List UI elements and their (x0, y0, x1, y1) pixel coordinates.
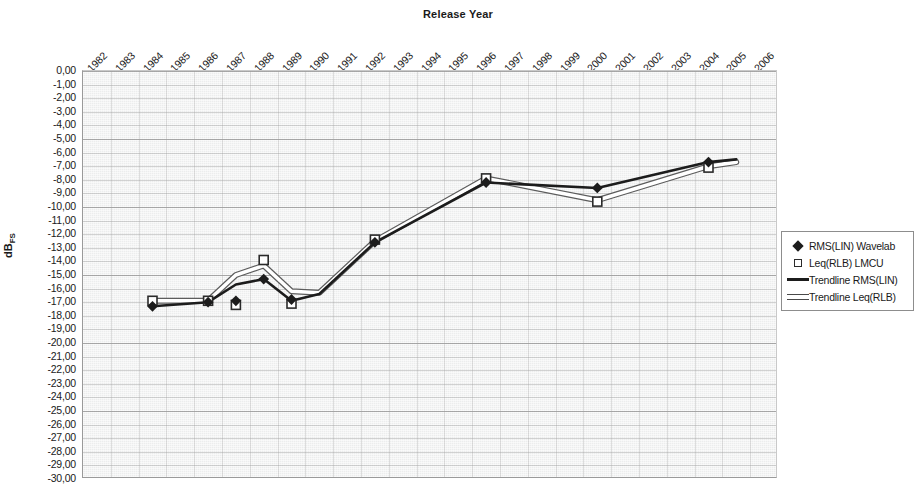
y-axis-tick-label: -23,00 (0, 378, 76, 389)
y-axis-tick-label: -17,00 (0, 296, 76, 307)
y-axis-tick-label: -7,00 (0, 160, 76, 171)
data-point-leq-rlb-lmcu (259, 256, 268, 265)
legend-item-trendline-leq-rlb: Trendline Leq(RLB) (787, 288, 909, 305)
y-axis-tick-label: -12,00 (0, 228, 76, 239)
solid-line-icon (787, 278, 809, 281)
y-axis-tick-label: -6,00 (0, 147, 76, 158)
plot-area (82, 70, 777, 478)
y-axis-tick-label: -1,00 (0, 79, 76, 90)
chart-legend: RMS(LIN) Wavelab Leq(RLB) LMCU Trendline… (781, 231, 914, 311)
y-axis-tick-label: -26,00 (0, 419, 76, 430)
trendline-leq-rlb (153, 162, 737, 301)
y-axis-tick-label: -2,00 (0, 92, 76, 103)
y-axis-tick-label: -10,00 (0, 201, 76, 212)
y-axis-tick-label: -9,00 (0, 187, 76, 198)
filled-diamond-icon (787, 242, 809, 250)
y-axis-tick-label: -14,00 (0, 255, 76, 266)
series-plot (83, 71, 777, 478)
legend-label: Leq(RLB) LMCU (809, 257, 883, 269)
y-axis-tick-label: -19,00 (0, 323, 76, 334)
legend-label: Trendline Leq(RLB) (809, 291, 896, 303)
y-axis-tick-label: -25,00 (0, 405, 76, 416)
y-axis-tick-label: -24,00 (0, 391, 76, 402)
y-axis-tick-label: -18,00 (0, 310, 76, 321)
legend-item-rms-lin-wavelab: RMS(LIN) Wavelab (787, 237, 909, 254)
y-axis-tick-label: -28,00 (0, 446, 76, 457)
chart-title: Release Year (0, 8, 916, 20)
y-axis-tick-label: -13,00 (0, 242, 76, 253)
y-axis-tick-label: -15,00 (0, 269, 76, 280)
y-axis-tick-label: -22,00 (0, 364, 76, 375)
y-axis-tick-label: -5,00 (0, 133, 76, 144)
y-axis-tick-label: -27,00 (0, 432, 76, 443)
hollow-line-icon (787, 294, 809, 300)
legend-item-trendline-rms-lin: Trendline RMS(LIN) (787, 271, 909, 288)
data-point-rms-lin-wavelab (592, 183, 603, 194)
x-axis-tick-labels: 1982198319841985198619871988198919901991… (0, 24, 916, 68)
legend-label: Trendline RMS(LIN) (809, 274, 897, 286)
y-axis-tick-label: -16,00 (0, 283, 76, 294)
y-axis-tick-label: -29,00 (0, 459, 76, 470)
y-axis-tick-label: -4,00 (0, 119, 76, 130)
y-axis-tick-label: -8,00 (0, 174, 76, 185)
y-axis-tick-label: -20,00 (0, 337, 76, 348)
legend-label: RMS(LIN) Wavelab (809, 240, 895, 252)
y-axis-tick-label: -3,00 (0, 106, 76, 117)
legend-item-leq-rlb-lmcu: Leq(RLB) LMCU (787, 254, 909, 271)
y-axis-tick-label: -11,00 (0, 215, 76, 226)
hollow-square-icon (787, 259, 809, 267)
y-axis-tick-label: -21,00 (0, 351, 76, 362)
data-point-leq-rlb-lmcu (593, 197, 602, 206)
y-axis-tick-label: 0,00 (0, 65, 76, 76)
y-axis-tick-label: -30,00 (0, 473, 76, 484)
